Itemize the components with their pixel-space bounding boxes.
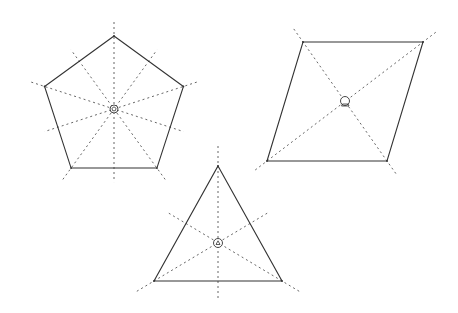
pentagon-center-icon (110, 105, 118, 113)
pentagon-vertex (70, 167, 72, 169)
pentagon-vertex (113, 35, 115, 37)
triangle-vertex (153, 280, 155, 282)
pentagon-symmetry-line (31, 82, 183, 131)
triangle-symmetry-line (137, 213, 267, 291)
pentagon-figure (31, 22, 196, 182)
triangle-center-icon (214, 239, 223, 248)
pentagon-vertex (156, 167, 158, 169)
rhombus-vertex (422, 41, 424, 43)
symmetry-diagram (0, 0, 458, 313)
pentagon-symmetry-line (45, 82, 197, 131)
rhombus-vertex (302, 41, 304, 43)
triangle-symmetry-line (169, 213, 299, 291)
triangle-vertex (281, 280, 283, 282)
triangle-figure (137, 146, 299, 301)
pentagon-symmetry-line (71, 50, 165, 179)
triangle-outline (154, 166, 282, 281)
pentagon-vertex (183, 86, 185, 88)
pentagon-symmetry-line (63, 50, 157, 179)
rhombus-vertex (386, 160, 388, 162)
rhombus-vertex (266, 160, 268, 162)
rhombus-figure (254, 29, 435, 174)
pentagon-vertex (44, 86, 46, 88)
triangle-vertex (217, 165, 219, 167)
